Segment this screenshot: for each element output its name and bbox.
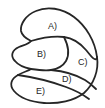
region-diagram-svg	[0, 0, 105, 108]
region-label-b: B)	[37, 50, 46, 59]
region-label-d: D)	[62, 75, 72, 84]
diagram-canvas: A) B) C) D) E)	[0, 0, 105, 108]
region-label-e: E)	[36, 87, 45, 96]
region-label-c: C)	[78, 58, 88, 67]
region-label-a: A)	[48, 22, 57, 31]
